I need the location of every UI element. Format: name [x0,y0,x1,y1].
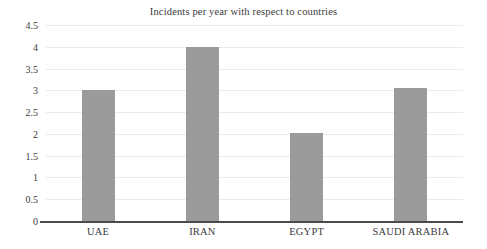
y-axis-tick-label: 0.5 [26,194,39,205]
x-axis-tick-label: EGYPT [289,226,324,237]
y-axis-tick-label: 0 [33,216,38,227]
y-axis-tick-label: 1 [33,172,38,183]
x-axis-tick-label: IRAN [189,226,215,237]
bar-uae [82,90,115,221]
bar-egypt [290,133,323,221]
bar-iran [186,47,219,221]
gridline [46,25,463,26]
bar-chart: Incidents per year with respect to count… [0,0,487,249]
y-axis-tick-label: 4.5 [26,20,39,31]
gridline [46,69,463,70]
y-axis-tick-label: 2.5 [26,107,39,118]
y-axis-tick-label: 4 [33,41,38,52]
y-axis-tick-label: 1.5 [26,150,39,161]
x-axis-tick-label: UAE [87,226,109,237]
gridline [46,47,463,48]
bar-saudi-arabia [394,88,427,221]
y-axis-tick-label: 2 [33,128,38,139]
x-axis-tick-label: SAUDI ARABIA [372,226,449,237]
x-axis-line [40,221,463,223]
y-axis-tick-label: 3.5 [26,63,39,74]
chart-title: Incidents per year with respect to count… [0,6,487,17]
plot-area [46,25,463,221]
y-axis-tick-label: 3 [33,85,38,96]
